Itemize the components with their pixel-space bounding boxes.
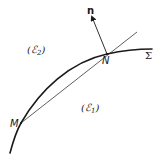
point-m-label: M bbox=[10, 119, 19, 129]
surface-sigma-curve bbox=[10, 49, 152, 153]
point-n-label: N bbox=[102, 56, 109, 66]
normal-vector-label: n bbox=[87, 6, 94, 16]
point-m-dot bbox=[20, 122, 22, 124]
region-e2-close: ) bbox=[41, 44, 45, 55]
surface-sigma-label: Σ bbox=[145, 51, 152, 61]
region-e2-base: (ℰ bbox=[27, 44, 37, 55]
region-e1-base: (ℰ bbox=[81, 102, 91, 113]
region-e1-close: ) bbox=[95, 102, 99, 113]
diagram-canvas bbox=[0, 0, 163, 164]
normal-vector-arrow bbox=[92, 17, 107, 54]
region-e2-label: (ℰ2) bbox=[27, 45, 45, 57]
region-e1-label: (ℰ1) bbox=[81, 103, 99, 115]
